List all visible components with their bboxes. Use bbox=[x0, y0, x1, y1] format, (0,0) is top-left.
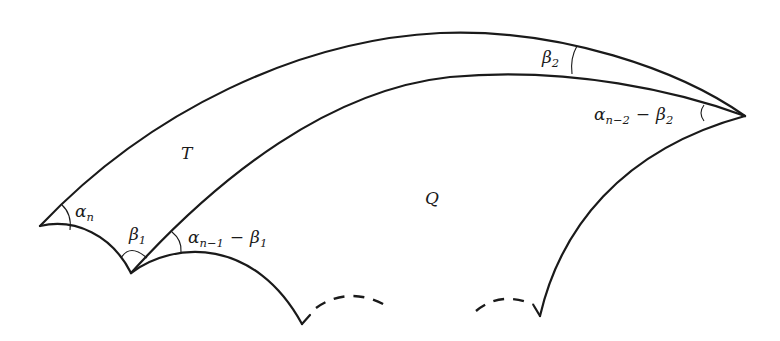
outer-arc bbox=[40, 33, 745, 226]
right-arc bbox=[540, 116, 745, 316]
region-label-Q: Q bbox=[425, 188, 439, 208]
cusp-1 bbox=[302, 315, 310, 324]
angle-mark-alpha-n2 bbox=[701, 105, 704, 121]
angle-label-alpha-n1-minus-beta-1: αn−1−β1 bbox=[188, 227, 267, 250]
cusp-2 bbox=[534, 306, 540, 316]
left-bottom-arc bbox=[40, 224, 131, 273]
angle-mark-alpha-n1 bbox=[172, 232, 181, 252]
angle-label-beta-1: β1 bbox=[128, 224, 146, 247]
angle-label-alpha-n2-minus-beta-2: αn−2−β2 bbox=[594, 104, 673, 127]
bottom-arc-1 bbox=[131, 252, 302, 324]
hyperbolic-polygon-diagram: T Q αn β1 αn−1−β1 β2 αn−2−β2 bbox=[0, 0, 780, 341]
angle-label-beta-2: β2 bbox=[541, 47, 559, 70]
dashed-arc-2 bbox=[476, 299, 534, 311]
dashed-arc-1 bbox=[316, 296, 390, 308]
angle-label-alpha-n: αn bbox=[75, 201, 94, 224]
angle-mark-beta-1 bbox=[121, 251, 147, 259]
angle-mark-alpha-n bbox=[62, 205, 70, 230]
angle-mark-beta-2 bbox=[572, 46, 577, 74]
region-label-T: T bbox=[181, 143, 194, 163]
